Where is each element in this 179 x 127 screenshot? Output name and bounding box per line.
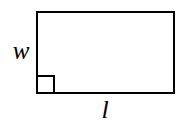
width-label: w (8, 38, 34, 63)
length-label: l (92, 97, 118, 123)
rectangle-figure: w l (0, 0, 179, 127)
